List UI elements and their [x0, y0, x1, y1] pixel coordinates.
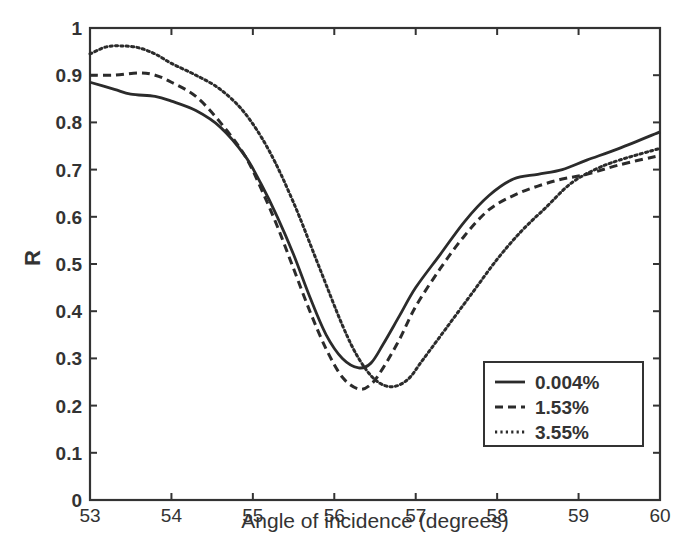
chart-background — [0, 0, 698, 550]
y-tick-label: 0.1 — [56, 443, 83, 464]
x-tick-label: 54 — [161, 505, 183, 526]
y-tick-label: 0.4 — [56, 301, 83, 322]
y-tick-label: 0.8 — [56, 112, 82, 133]
legend-label: 1.53% — [535, 397, 589, 418]
legend-label: 0.004% — [535, 372, 600, 393]
y-tick-label: 0.3 — [56, 348, 82, 369]
y-tick-label: 0.5 — [56, 254, 83, 275]
y-tick-label: 0.7 — [56, 160, 82, 181]
y-tick-label: 1 — [71, 18, 82, 39]
legend: 0.004%1.53%3.55% — [484, 362, 643, 446]
x-tick-label: 59 — [568, 505, 589, 526]
y-tick-label: 0.2 — [56, 396, 82, 417]
legend-label: 3.55% — [535, 422, 589, 443]
x-axis-label: Angle of incidence (degrees) — [241, 509, 508, 532]
y-tick-label: 0.9 — [56, 65, 82, 86]
chart: 00.10.20.30.40.50.60.70.80.91 5354555657… — [0, 0, 698, 550]
y-axis-label: R — [20, 250, 45, 266]
y-tick-label: 0.6 — [56, 207, 82, 228]
x-tick-label: 60 — [649, 505, 670, 526]
x-tick-label: 53 — [79, 505, 100, 526]
